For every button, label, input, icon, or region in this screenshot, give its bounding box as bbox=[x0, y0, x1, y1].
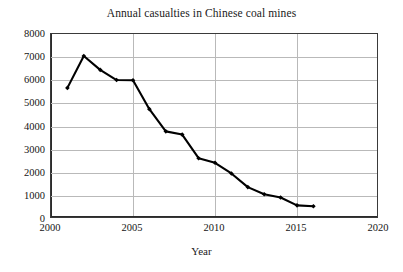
data-point-marker bbox=[311, 204, 316, 209]
x-axis-tick-label: 2010 bbox=[204, 222, 225, 233]
x-axis-tick-label: 2015 bbox=[286, 222, 307, 233]
y-axis-tick-label: 3000 bbox=[6, 143, 45, 154]
y-axis-tick-label: 6000 bbox=[6, 74, 45, 85]
x-axis-tick-label: 2000 bbox=[40, 222, 61, 233]
y-axis-tick-label: 8000 bbox=[6, 28, 45, 39]
y-axis-tick-label: 2000 bbox=[6, 166, 45, 177]
x-axis-label: Year bbox=[0, 245, 403, 257]
plot-area bbox=[50, 33, 378, 218]
chart-figure: Annual casualties in Chinese coal mines … bbox=[0, 0, 403, 272]
y-axis-tick-label: 0 bbox=[6, 213, 45, 224]
y-axis-tick-label: 7000 bbox=[6, 51, 45, 62]
data-series-line bbox=[51, 34, 379, 219]
y-axis-tick-label: 4000 bbox=[6, 120, 45, 131]
y-axis-tick-label: 5000 bbox=[6, 97, 45, 108]
x-axis-tick-label: 2020 bbox=[368, 222, 389, 233]
y-axis-tick-label: 1000 bbox=[6, 189, 45, 200]
chart-title: Annual casualties in Chinese coal mines bbox=[0, 7, 403, 19]
x-axis-tick-label: 2005 bbox=[122, 222, 143, 233]
